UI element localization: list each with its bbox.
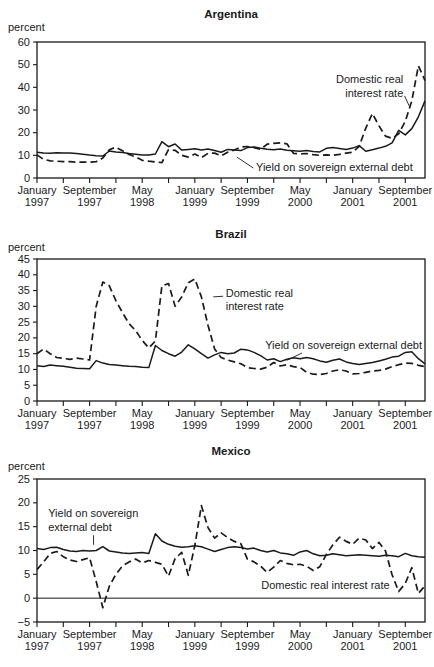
x-tick-label: January1997 — [17, 628, 57, 652]
y-tick-label: 10 — [18, 544, 30, 556]
y-tick-label: 30 — [18, 104, 30, 116]
y-tick-label: 40 — [18, 81, 30, 93]
y-tick-label: 50 — [18, 58, 30, 70]
y-tick-label: 40 — [18, 268, 30, 280]
x-tick-label: September2001 — [378, 184, 432, 208]
series-label: Domestic real interest rate — [261, 579, 389, 591]
argentina-chart: Argentinapercent0102030405060January1997… — [0, 0, 434, 225]
x-tick-label: May1998 — [130, 407, 154, 431]
x-tick-label: January1997 — [17, 184, 57, 208]
series-label: Yield on sovereignexternal debt — [48, 507, 138, 532]
x-tick-label: September1997 — [63, 184, 117, 208]
series-label-pointer — [237, 157, 253, 168]
x-tick-label: May1998 — [130, 184, 154, 208]
mexico-yield-on-sovereign-external-debt-line — [37, 534, 425, 557]
y-tick-label: 10 — [18, 363, 30, 375]
x-tick-label: September1999 — [221, 184, 275, 208]
x-tick-label: January1999 — [175, 184, 215, 208]
y-tick-label: 0 — [24, 172, 30, 184]
x-tick-label: May2000 — [288, 184, 312, 208]
y-tick-label: 20 — [18, 496, 30, 508]
x-tick-label: May2000 — [288, 407, 312, 431]
series-label: Domestic realinterest rate — [226, 287, 293, 313]
x-tick-label: September1997 — [63, 628, 117, 652]
y-tick-label: 0 — [24, 592, 30, 604]
brazil-chart: Brazilpercent051015202530354045January19… — [0, 225, 434, 440]
plot-border — [37, 42, 425, 178]
chart-title: Brazil — [215, 228, 246, 240]
chart-title: Argentina — [204, 8, 258, 20]
x-tick-label: May1998 — [130, 628, 154, 652]
y-tick-label: 15 — [18, 347, 30, 359]
y-tick-label: 5 — [24, 568, 30, 580]
three-panel-figure: Argentinapercent0102030405060January1997… — [0, 0, 434, 667]
y-tick-label: −5 — [17, 616, 30, 628]
x-tick-label: January1999 — [175, 407, 215, 431]
x-tick-label: January1997 — [17, 407, 57, 431]
brazil-svg: Brazilpercent051015202530354045January19… — [0, 225, 434, 440]
y-tick-label: 0 — [24, 395, 30, 407]
x-tick-label: September2001 — [378, 628, 432, 652]
argentina-svg: Argentinapercent0102030405060January1997… — [0, 0, 434, 225]
y-axis-unit-label: percent — [8, 460, 45, 472]
y-tick-label: 15 — [18, 520, 30, 532]
y-axis-unit-label: percent — [8, 241, 45, 253]
y-tick-label: 25 — [18, 316, 30, 328]
y-tick-label: 20 — [18, 126, 30, 138]
x-tick-label: September1997 — [63, 407, 117, 431]
x-tick-label: January1999 — [175, 628, 215, 652]
series-label: Yield on sovereign external debt — [256, 161, 413, 173]
y-tick-label: 10 — [18, 149, 30, 161]
y-axis-unit-label: percent — [8, 21, 45, 33]
x-tick-label: September1999 — [221, 407, 275, 431]
series-label: Domestic realinterest rate — [336, 73, 403, 99]
y-tick-label: 30 — [18, 300, 30, 312]
x-tick-label: January2001 — [333, 407, 373, 431]
x-tick-label: September1999 — [221, 628, 275, 652]
x-tick-label: January2001 — [333, 184, 373, 208]
y-tick-label: 25 — [18, 473, 30, 485]
series-label-pointer — [405, 96, 410, 106]
series-label-pointer — [213, 296, 223, 297]
y-tick-label: 45 — [18, 253, 30, 265]
x-tick-label: May2000 — [288, 628, 312, 652]
x-tick-label: January2001 — [333, 628, 373, 652]
plot-border — [37, 259, 425, 401]
argentina-yield-on-sovereign-external-debt-line — [37, 101, 425, 156]
y-tick-label: 35 — [18, 284, 30, 296]
y-tick-label: 60 — [18, 36, 30, 48]
series-label: Yield on sovereign external debt — [265, 339, 422, 351]
y-tick-label: 20 — [18, 331, 30, 343]
mexico-svg: Mexicopercent−50510152025January1997Sept… — [0, 440, 434, 667]
chart-title: Mexico — [212, 445, 251, 457]
mexico-chart: Mexicopercent−50510152025January1997Sept… — [0, 440, 434, 667]
x-tick-label: September2001 — [378, 407, 432, 431]
y-tick-label: 5 — [24, 379, 30, 391]
